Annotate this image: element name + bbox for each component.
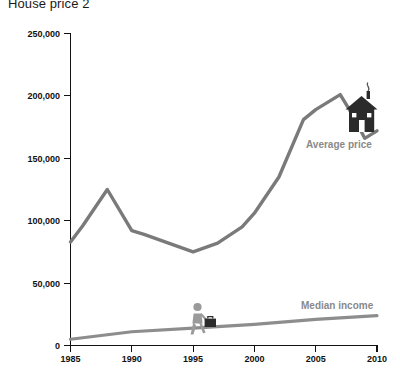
x-tick-label-2000: 2000 bbox=[244, 354, 264, 364]
annotation-average-price: Average price bbox=[306, 139, 372, 150]
y-tick-label-50000: 50,000 bbox=[32, 279, 60, 289]
chart-plot-area: 250,000 200,000 150,000 100,000 50,000 0… bbox=[0, 0, 400, 380]
x-axis-ticks: 1985 1990 1995 2000 2005 2010 bbox=[60, 346, 387, 365]
house-price-chart: House price 2 250,000 200,000 150,000 10… bbox=[0, 0, 400, 380]
house-icon bbox=[346, 83, 378, 132]
series-line-average-price bbox=[71, 95, 378, 252]
y-tick-label-150000: 150,000 bbox=[27, 154, 60, 164]
y-tick-label-250000: 250,000 bbox=[27, 29, 60, 39]
x-tick-label-1990: 1990 bbox=[122, 354, 142, 364]
y-tick-label-200000: 200,000 bbox=[27, 91, 60, 101]
y-axis-ticks: 250,000 200,000 150,000 100,000 50,000 0 bbox=[27, 29, 70, 351]
y-tick-label-0: 0 bbox=[55, 341, 60, 351]
x-tick-label-1995: 1995 bbox=[183, 354, 203, 364]
y-tick-label-100000: 100,000 bbox=[27, 216, 60, 226]
x-tick-label-2005: 2005 bbox=[306, 354, 326, 364]
x-tick-label-1985: 1985 bbox=[60, 354, 80, 364]
annotation-median-income: Median income bbox=[301, 300, 374, 311]
x-tick-label-2010: 2010 bbox=[367, 354, 387, 364]
businessman-briefcase-icon bbox=[191, 303, 216, 335]
series-line-median-income bbox=[71, 316, 378, 340]
